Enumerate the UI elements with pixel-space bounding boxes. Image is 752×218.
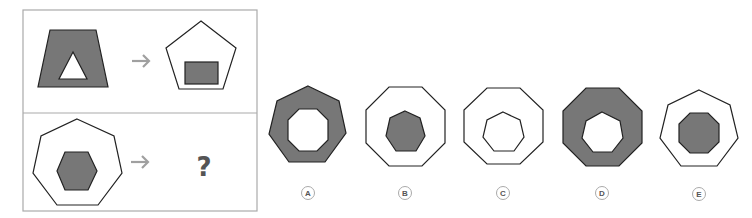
option-c-label: C xyxy=(500,189,506,198)
option-e-label: E xyxy=(696,190,702,199)
option-b-label: B xyxy=(402,189,408,198)
question-mark: ? xyxy=(196,152,211,182)
puzzle-canvas: ? A B C D E xyxy=(0,0,752,218)
option-a-label: A xyxy=(305,189,311,198)
option-d[interactable]: D xyxy=(563,88,642,200)
option-c[interactable]: C xyxy=(464,88,543,200)
option-e[interactable]: E xyxy=(660,90,738,201)
option-d-label: D xyxy=(599,189,605,198)
option-a[interactable]: A xyxy=(269,86,346,200)
example-source-shape xyxy=(38,30,108,87)
option-b[interactable]: B xyxy=(366,87,445,200)
